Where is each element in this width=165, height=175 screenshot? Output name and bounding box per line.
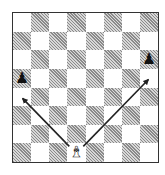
square-b2	[31, 125, 49, 144]
square-d3	[67, 106, 85, 125]
square-d4	[67, 88, 85, 107]
square-h5	[140, 69, 158, 88]
square-f8	[104, 13, 122, 32]
square-a2	[13, 125, 31, 144]
square-g1	[122, 143, 140, 162]
white-bishop-icon: ♝	[67, 143, 85, 162]
black-pawn-icon: ♟	[140, 50, 158, 69]
square-e2	[86, 125, 104, 144]
square-f1	[104, 143, 122, 162]
square-c8	[49, 13, 67, 32]
square-c1	[49, 143, 67, 162]
square-a4	[13, 88, 31, 107]
square-g7	[122, 32, 140, 51]
square-f2	[104, 125, 122, 144]
square-a6	[13, 50, 31, 69]
black-pawn-icon: ♟	[13, 69, 31, 88]
square-b3	[31, 106, 49, 125]
square-h4	[140, 88, 158, 107]
square-b6	[31, 50, 49, 69]
square-d7	[67, 32, 85, 51]
square-c2	[49, 125, 67, 144]
square-a5: ♟	[13, 69, 31, 88]
chess-diagram: ♟♟♝	[0, 0, 165, 175]
square-e6	[86, 50, 104, 69]
square-c4	[49, 88, 67, 107]
square-e7	[86, 32, 104, 51]
square-f7	[104, 32, 122, 51]
square-e3	[86, 106, 104, 125]
square-b5	[31, 69, 49, 88]
square-a3	[13, 106, 31, 125]
square-a8	[13, 13, 31, 32]
square-h3	[140, 106, 158, 125]
square-b1	[31, 143, 49, 162]
square-c5	[49, 69, 67, 88]
square-c3	[49, 106, 67, 125]
square-e4	[86, 88, 104, 107]
square-g6	[122, 50, 140, 69]
square-h6: ♟	[140, 50, 158, 69]
square-b4	[31, 88, 49, 107]
square-h1	[140, 143, 158, 162]
square-d2	[67, 125, 85, 144]
square-e8	[86, 13, 104, 32]
square-a7	[13, 32, 31, 51]
square-g2	[122, 125, 140, 144]
square-f4	[104, 88, 122, 107]
square-e5	[86, 69, 104, 88]
square-g5	[122, 69, 140, 88]
square-d8	[67, 13, 85, 32]
square-b8	[31, 13, 49, 32]
square-c6	[49, 50, 67, 69]
chess-board: ♟♟♝	[12, 12, 159, 163]
square-f5	[104, 69, 122, 88]
square-b7	[31, 32, 49, 51]
square-f6	[104, 50, 122, 69]
square-h2	[140, 125, 158, 144]
square-h8	[140, 13, 158, 32]
square-c7	[49, 32, 67, 51]
square-f3	[104, 106, 122, 125]
square-g4	[122, 88, 140, 107]
square-h7	[140, 32, 158, 51]
square-e1	[86, 143, 104, 162]
square-g8	[122, 13, 140, 32]
square-g3	[122, 106, 140, 125]
square-d6	[67, 50, 85, 69]
square-d5	[67, 69, 85, 88]
square-d1: ♝	[67, 143, 85, 162]
square-a1	[13, 143, 31, 162]
